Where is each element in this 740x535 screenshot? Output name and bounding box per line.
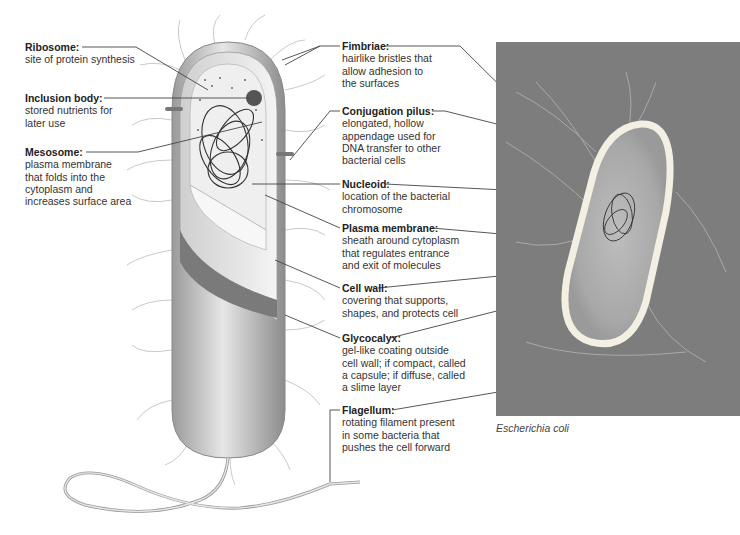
label-title: Conjugation pilus:	[342, 105, 441, 117]
photo-caption: Escherichia coli	[496, 422, 569, 434]
label-desc: stored nutrients for later use	[25, 104, 113, 129]
label-nucleoid: Nucleoid: location of the bacterial chro…	[342, 178, 450, 215]
label-title: Nucleoid:	[342, 178, 450, 190]
label-desc: hairlike bristles that allow adhesion to…	[342, 52, 432, 89]
label-inclusion-body: Inclusion body: stored nutrients for lat…	[25, 92, 113, 129]
label-ribosome: Ribosome: site of protein synthesis	[25, 41, 135, 66]
label-title: Cell wall:	[342, 282, 458, 294]
label-title: Glycocalyx:	[342, 332, 466, 344]
label-desc: covering that supports, shapes, and prot…	[342, 294, 458, 319]
label-title: Plasma membrane:	[342, 222, 459, 234]
label-title: Fimbriae:	[342, 40, 432, 52]
e-coli-micrograph	[496, 42, 740, 416]
label-title: Flagellum:	[342, 404, 455, 416]
label-flagellum: Flagellum: rotating filament present in …	[342, 404, 455, 453]
label-title: Mesosome:	[25, 146, 131, 158]
label-desc: plasma membrane that folds into the cyto…	[25, 158, 131, 207]
label-desc: gel-like coating outside cell wall; if c…	[342, 344, 466, 393]
label-title: Inclusion body:	[25, 92, 113, 104]
label-desc: location of the bacterial chromosome	[342, 190, 450, 215]
label-desc: rotating filament present in some bacter…	[342, 416, 455, 453]
label-plasma-membrane: Plasma membrane: sheath around cytoplasm…	[342, 222, 459, 271]
label-desc: sheath around cytoplasm that regulates e…	[342, 234, 459, 271]
label-desc: site of protein synthesis	[25, 53, 135, 65]
label-desc: elongated, hollow appendage used for DNA…	[342, 117, 441, 166]
label-conjugation-pilus: Conjugation pilus: elongated, hollow app…	[342, 105, 441, 166]
label-glycocalyx: Glycocalyx: gel-like coating outside cel…	[342, 332, 466, 393]
label-fimbriae: Fimbriae: hairlike bristles that allow a…	[342, 40, 432, 89]
label-mesosome: Mesosome: plasma membrane that folds int…	[25, 146, 131, 207]
label-title: Ribosome:	[25, 41, 135, 53]
label-cell-wall: Cell wall: covering that supports, shape…	[342, 282, 458, 319]
